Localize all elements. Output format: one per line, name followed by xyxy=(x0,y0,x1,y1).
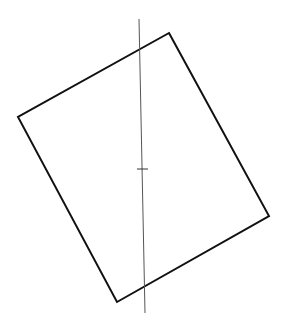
diagram-canvas xyxy=(0,0,284,331)
